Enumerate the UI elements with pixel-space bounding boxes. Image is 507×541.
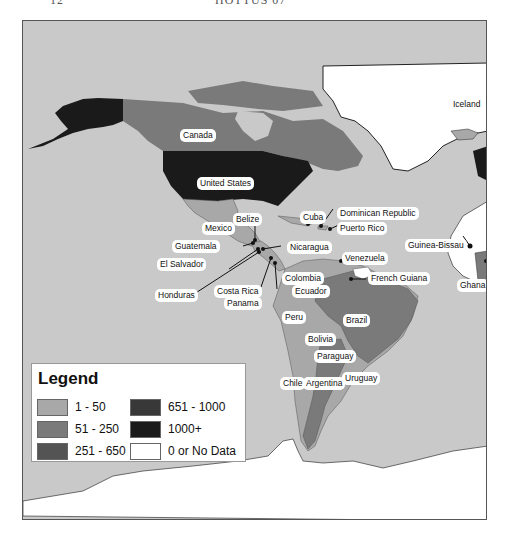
legend-item-251-650: 251 - 650 [37,442,126,460]
label-cuba: Cuba [301,212,325,223]
label-nicaragua: Nicaragua [288,242,331,253]
label-puerto-rico: Puerto Rico [338,223,386,234]
label-guinea-bissau: Guinea-Bissau [406,240,466,251]
label-brazil: Brazil [344,315,369,326]
label-guatemala: Guatemala [173,241,219,252]
running-title: HOTTUS 07 [215,0,286,8]
label-venezuela: Venezuela [343,253,387,264]
label-canada: Canada [181,130,215,141]
alaska [28,98,123,149]
legend-label: 651 - 1000 [168,400,225,414]
label-mexico: Mexico [203,223,234,234]
legend-item-no-data: 0 or No Data [130,442,236,460]
label-french-guiana: French Guiana [369,273,429,284]
europe [473,146,487,181]
choropleth-map: Canada United States Mexico Belize Cuba … [22,20,487,520]
label-costa-rica: Costa Rica [215,286,261,297]
legend-label: 1000+ [168,422,202,436]
label-chile: Chile [281,378,304,389]
legend-item-1000-plus: 1000+ [130,420,202,438]
legend-title: Legend [38,369,98,389]
legend-label: 51 - 250 [75,422,119,436]
legend-item-51-250: 51 - 250 [37,420,119,438]
label-uruguay: Uruguay [343,373,379,384]
legend-item-1-50: 1 - 50 [37,398,106,416]
legend-swatch [130,399,161,416]
label-peru: Peru [283,312,305,323]
legend-item-651-1000: 651 - 1000 [130,398,225,416]
label-dominican-republic: Dominican Republic [338,208,418,219]
page-header: 12 HOTTUS 07 [0,0,507,10]
label-iceland: Iceland [451,99,482,110]
label-belize: Belize [234,214,261,225]
legend-swatch [37,399,68,416]
legend-label: 0 or No Data [168,444,236,458]
label-colombia: Colombia [283,273,323,284]
label-panama: Panama [225,298,261,309]
page-number: 12 [50,0,64,8]
arctic-islands [188,81,323,111]
label-el-salvador: El Salvador [158,259,205,270]
label-honduras: Honduras [156,290,197,301]
legend: Legend 1 - 50 51 - 250 251 - 650 651 - 1… [31,363,246,462]
label-united-states: United States [198,178,253,189]
label-argentina: Argentina [304,378,344,389]
label-ghana: Ghana [458,280,487,291]
legend-swatch [130,421,161,438]
label-ecuador: Ecuador [293,286,329,297]
legend-swatch [37,443,68,460]
legend-label: 1 - 50 [75,400,106,414]
legend-label: 251 - 650 [75,444,126,458]
legend-swatch [37,421,68,438]
label-bolivia: Bolivia [306,334,335,345]
label-paraguay: Paraguay [315,351,355,362]
legend-swatch [130,443,161,460]
